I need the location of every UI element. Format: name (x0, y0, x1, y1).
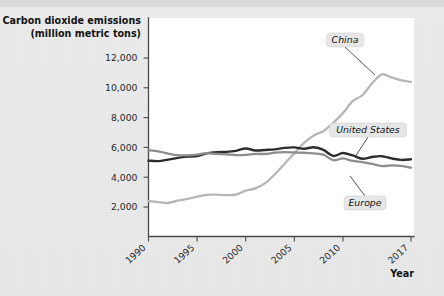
x-tick-label: 2017 (385, 242, 410, 266)
y-axis-ticks: 12,00010,0008,0006,0004,0002,000 (105, 52, 149, 212)
x-tick-label: 2000 (220, 242, 245, 266)
x-tick-label: 2010 (317, 242, 342, 266)
y-axis-title-line1: Carbon dioxide emissions (3, 15, 142, 26)
y-axis-title: Carbon dioxide emissions (million metric… (3, 15, 142, 39)
y-tick-label: 4,000 (111, 172, 138, 183)
x-axis-title: Year (389, 268, 414, 279)
y-axis-title-line2: (million metric tons) (30, 28, 141, 39)
callout-label-europe: Europe (348, 197, 381, 208)
x-tick-label: 1995 (171, 242, 196, 266)
callout-label-united-states: United States (336, 124, 400, 135)
x-axis-ticks: 199019952000200520102017 (123, 237, 411, 266)
y-tick-label: 2,000 (111, 201, 138, 212)
x-tick-label: 2005 (269, 242, 294, 266)
co2-emissions-line-chart: Carbon dioxide emissions (million metric… (0, 0, 444, 296)
callout-label-china: China (332, 34, 359, 45)
x-tick-label: 1990 (123, 242, 148, 266)
y-tick-label: 10,000 (105, 82, 138, 93)
y-tick-label: 6,000 (111, 142, 138, 153)
y-tick-label: 12,000 (105, 52, 138, 63)
y-tick-label: 8,000 (111, 112, 138, 123)
